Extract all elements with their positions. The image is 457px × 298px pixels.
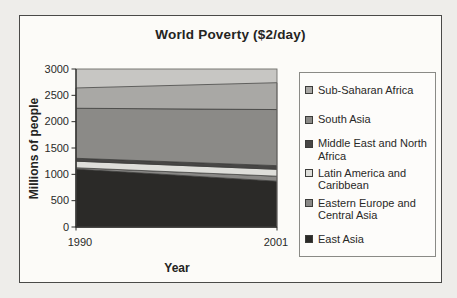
area-south-asia [76,108,277,165]
legend-row: Latin America and Caribbean [305,167,406,192]
x-tick-label: 2001 [264,236,288,248]
legend-item-east-asia: East Asia [300,224,435,254]
legend-item-middle-east-and-north-africa: Middle East and North Africa [300,135,435,165]
y-axis-title: Millions of people [27,74,42,224]
legend-swatch-icon [305,169,313,177]
legend-label: Middle East and North Africa [318,137,427,162]
y-tick-label: 1000 [45,168,69,180]
legend-item-sub-saharan-africa: Sub-Saharan Africa [300,75,435,105]
legend-row: Middle East and North Africa [305,137,427,162]
legend-label: Eastern Europe and Central Asia [318,197,416,222]
legend-label: Latin America and Caribbean [318,167,406,192]
legend-label: Sub-Saharan Africa [318,84,413,97]
legend-label: East Asia [318,233,364,246]
y-tick-label: 2500 [45,89,69,101]
legend-row: Eastern Europe and Central Asia [305,197,416,222]
legend-label: South Asia [318,113,371,126]
legend-swatch-icon [305,235,313,243]
x-tick-label: 1990 [68,236,92,248]
legend-swatch-icon [305,199,313,207]
legend-row: South Asia [305,113,371,126]
legend-item-eastern-europe-and-central-asia: Eastern Europe and Central Asia [300,194,435,224]
legend-box: Sub-Saharan AfricaSouth AsiaMiddle East … [299,72,436,257]
legend-swatch-icon [305,140,313,148]
y-tick-label: 0 [63,221,69,233]
chart-figure: World Poverty ($2/day) 05001000150020002… [19,15,442,283]
legend-item-latin-america-and-caribbean: Latin America and Caribbean [300,164,435,194]
legend-row: East Asia [305,233,364,246]
y-tick-label: 2000 [45,115,69,127]
legend-item-south-asia: South Asia [300,105,435,135]
chart-title: World Poverty ($2/day) [20,27,441,42]
y-tick-label: 500 [51,194,69,206]
x-axis-title: Year [77,261,277,275]
y-tick-label: 1500 [45,142,69,154]
legend-swatch-icon [305,86,313,94]
legend-swatch-icon [305,116,313,124]
y-tick-label: 3000 [45,63,69,75]
legend-row: Sub-Saharan Africa [305,84,413,97]
